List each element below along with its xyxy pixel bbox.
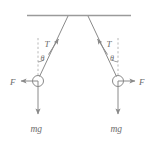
- physics-free-body-diagram: θ T F mg θ T F mg: [0, 0, 154, 143]
- force-label-right: F: [138, 77, 145, 87]
- left-pendulum-group: θ T F mg: [9, 16, 68, 134]
- weight-label-left: mg: [31, 124, 43, 134]
- angle-label-left: θ: [41, 54, 45, 63]
- tension-label-right: T: [107, 39, 113, 49]
- force-label-left: F: [9, 77, 16, 87]
- right-pendulum-group: θ T F mg: [88, 16, 145, 134]
- weight-label-right: mg: [111, 124, 123, 134]
- tension-arrow-left: [49, 39, 59, 55]
- tension-label-left: T: [45, 39, 51, 49]
- angle-label-right: θ: [110, 54, 114, 63]
- diagram-canvas: θ T F mg θ T F mg: [0, 0, 154, 143]
